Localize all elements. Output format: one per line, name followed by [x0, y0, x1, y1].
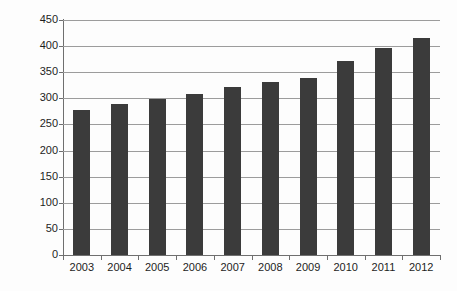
bar[interactable]	[149, 99, 166, 255]
x-axis-tick-label: 2012	[401, 261, 441, 274]
y-axis-tick-label: 200	[24, 144, 58, 157]
x-axis-tick-mark	[365, 255, 366, 260]
y-axis-tick-label: 350	[24, 65, 58, 78]
y-axis-tick-label: 0	[24, 248, 58, 261]
plot-area	[63, 20, 440, 255]
y-axis-tick-mark	[59, 177, 63, 178]
y-axis-tick-mark	[59, 46, 63, 47]
y-axis-tick-label: 450	[24, 13, 58, 26]
x-axis-tick-label: 2010	[326, 261, 366, 274]
y-axis-tick-mark	[59, 20, 63, 21]
x-axis-tick-mark	[440, 255, 441, 260]
x-axis-tick-label: 2004	[100, 261, 140, 274]
y-axis-tick-mark	[59, 203, 63, 204]
x-axis-tick-label: 2008	[250, 261, 290, 274]
bar[interactable]	[413, 38, 430, 255]
x-axis-tick-mark	[402, 255, 403, 260]
x-axis-tick-mark	[252, 255, 253, 260]
bar[interactable]	[337, 61, 354, 255]
x-axis-tick-mark	[214, 255, 215, 260]
y-axis-tick-label: 50	[24, 222, 58, 235]
bar[interactable]	[224, 87, 241, 255]
x-axis-tick-mark	[63, 255, 64, 260]
x-axis-tick-label: 2011	[363, 261, 403, 274]
x-axis-tick-label: 2003	[62, 261, 102, 274]
y-axis-tick-mark	[59, 72, 63, 73]
x-axis-tick-mark	[138, 255, 139, 260]
y-axis-tick-label: 300	[24, 91, 58, 104]
y-axis-tick-label: 400	[24, 39, 58, 52]
y-axis-tick-label: 150	[24, 170, 58, 183]
bar[interactable]	[375, 48, 392, 255]
x-axis-tick-mark	[101, 255, 102, 260]
x-axis-tick-mark	[289, 255, 290, 260]
y-axis-tick-mark	[59, 151, 63, 152]
gridline	[63, 20, 440, 21]
y-axis-tick-mark	[59, 124, 63, 125]
x-axis-tick-label: 2007	[213, 261, 253, 274]
bar-chart: Available seats (M) 05010015020025030035…	[0, 0, 457, 291]
x-axis-tick-label: 2009	[288, 261, 328, 274]
bar[interactable]	[73, 110, 90, 255]
y-axis-tick-mark	[59, 98, 63, 99]
y-axis-tick-label: 250	[24, 117, 58, 130]
bar[interactable]	[300, 78, 317, 255]
bar[interactable]	[262, 82, 279, 255]
x-axis-tick-label: 2006	[175, 261, 215, 274]
x-axis-tick-mark	[176, 255, 177, 260]
y-axis-tick-mark	[59, 229, 63, 230]
y-axis-tick-label: 100	[24, 196, 58, 209]
bar[interactable]	[111, 104, 128, 255]
x-axis-tick-label: 2005	[137, 261, 177, 274]
x-axis-tick-mark	[327, 255, 328, 260]
bar[interactable]	[186, 94, 203, 255]
